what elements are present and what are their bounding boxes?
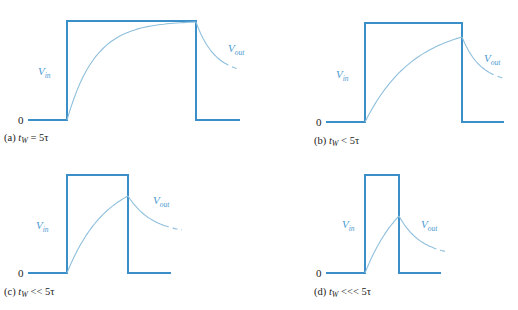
vout-charge-curve [67,22,196,120]
vout-discharge-dashed [489,73,503,79]
vout-discharge-dashed [224,63,238,69]
vin-label: Vin [342,218,355,233]
vout-discharge-dashed [164,225,182,230]
panel-b: VinVout0(b) tW < 5τ [314,23,504,148]
vin-label: Vin [38,65,51,80]
panel-caption: (c) tW << 5τ [4,286,54,299]
vout-label: Vout [421,218,438,233]
zero-level-label: 0 [316,267,322,279]
vin-label: Vin [36,219,49,234]
panel-caption: (d) tW <<< 5τ [314,286,371,299]
panel-d: VinVout0(d) tW <<< 5τ [314,175,448,299]
vin-pulse-waveform [28,21,240,120]
panel-c: VinVout0(c) tW << 5τ [4,175,182,299]
vout-charge-curve [365,216,399,273]
vout-charge-curve [67,196,128,273]
vout-label: Vout [228,42,245,57]
vout-discharge-curve [196,22,224,63]
vout-label: Vout [153,194,170,209]
panel-a: VinVout0(a) tW = 5τ [4,21,245,145]
rc-pulse-response-figure: VinVout0(a) tW = 5τ VinVout0(b) tW < 5τ … [0,0,518,310]
zero-level-label: 0 [18,267,24,279]
panel-caption: (b) tW < 5τ [314,135,359,148]
vin-label: Vin [336,68,349,83]
vout-label: Vout [484,52,501,67]
vout-discharge-dashed [432,247,448,252]
vin-pulse-waveform [326,23,504,122]
zero-level-label: 0 [18,114,24,126]
panel-caption: (a) tW = 5τ [4,132,49,145]
vout-charge-curve [365,37,462,122]
zero-level-label: 0 [316,116,322,128]
vin-pulse-waveform [28,175,171,273]
